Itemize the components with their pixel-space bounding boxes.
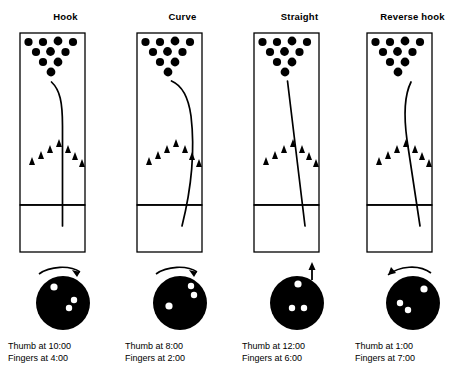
lane-surface — [20, 33, 85, 205]
approach-area — [137, 205, 202, 252]
panel-hook: Hook — [8, 0, 123, 384]
finger-hole-1 — [188, 283, 194, 289]
panel-title-curve: Curve — [125, 11, 240, 22]
thumb-hole — [420, 285, 427, 292]
lane-diagram-reverse-hook — [355, 30, 460, 258]
panel-reverse-hook: Reverse hook — [355, 0, 460, 384]
rotation-arrow-counter-clockwise-icon — [388, 267, 431, 275]
fingers-position-reverse-hook: Fingers at 7:00 — [355, 353, 460, 365]
finger-hole-2 — [66, 305, 72, 311]
approach-area — [254, 205, 319, 252]
thumb-position-reverse-hook: Thumb at 1:00 — [355, 341, 460, 353]
finger-hole-2 — [191, 292, 197, 298]
finger-hole-1 — [71, 297, 77, 303]
caption-curve: Thumb at 8:00 Fingers at 2:00 — [125, 341, 240, 364]
fingers-position-straight: Fingers at 6:00 — [242, 353, 357, 365]
panel-title-hook: Hook — [8, 11, 123, 22]
thumb-hole — [50, 283, 57, 290]
finger-hole-2 — [301, 305, 307, 311]
bowling-ball — [36, 276, 90, 330]
fingers-position-hook: Fingers at 4:00 — [8, 353, 123, 365]
bowling-ball — [386, 276, 440, 330]
panel-straight: Straight — [242, 0, 357, 384]
thumb-hole — [294, 280, 301, 287]
caption-hook: Thumb at 10:00 Fingers at 4:00 — [8, 341, 123, 364]
bowling-delivery-figure: Hook — [0, 0, 460, 384]
thumb-position-hook: Thumb at 10:00 — [8, 341, 123, 353]
caption-reverse-hook: Thumb at 1:00 Fingers at 7:00 — [355, 341, 460, 364]
finger-hole-1 — [397, 300, 403, 306]
ball-grip-reverse-hook — [355, 258, 460, 340]
bowling-ball — [153, 276, 207, 330]
lane-surface — [137, 33, 202, 205]
ball-grip-hook — [8, 258, 123, 340]
lane-surface — [254, 33, 319, 205]
caption-straight: Thumb at 12:00 Fingers at 6:00 — [242, 341, 357, 364]
thumb-position-curve: Thumb at 8:00 — [125, 341, 240, 353]
lane-diagram-straight — [242, 30, 357, 258]
approach-area — [367, 205, 432, 252]
finger-hole-1 — [289, 305, 295, 311]
ball-grip-curve — [125, 258, 240, 340]
lane-diagram-curve — [125, 30, 240, 258]
thumb-hole — [165, 302, 172, 309]
panel-curve: Curve — [125, 0, 240, 384]
panel-title-reverse-hook: Reverse hook — [355, 11, 460, 22]
panel-title-straight: Straight — [242, 11, 357, 22]
lane-diagram-hook — [8, 30, 123, 258]
fingers-position-curve: Fingers at 2:00 — [125, 353, 240, 365]
approach-area — [20, 205, 85, 252]
ball-grip-straight — [242, 258, 357, 340]
lane-surface — [367, 33, 432, 205]
rotation-arrow-head-icon — [309, 262, 316, 270]
finger-hole-2 — [405, 307, 411, 313]
thumb-position-straight: Thumb at 12:00 — [242, 341, 357, 353]
